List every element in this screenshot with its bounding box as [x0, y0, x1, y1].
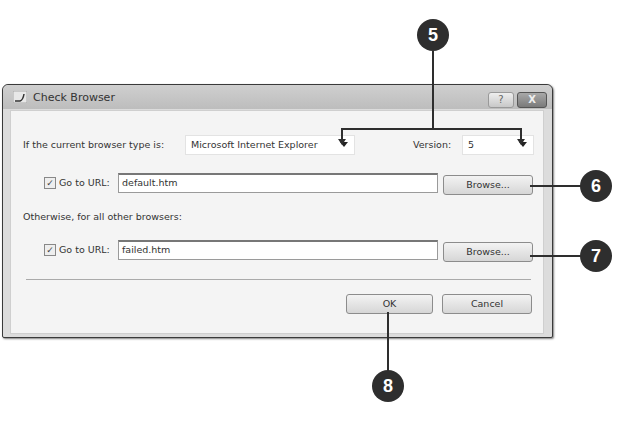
- browser-type-select[interactable]: Microsoft Internet Explorer: [185, 135, 355, 155]
- callout-8-stem: [387, 312, 389, 372]
- callout-5-bar: [341, 128, 522, 130]
- callout-8: 8: [372, 370, 404, 402]
- cancel-button[interactable]: Cancel: [442, 294, 532, 314]
- check-browser-dialog: Check Browser ? X If the current browser…: [2, 84, 553, 338]
- callout-7: 7: [580, 240, 612, 272]
- go-to-url-label-2: Go to URL:: [59, 244, 110, 255]
- version-select[interactable]: 5: [462, 135, 534, 155]
- browse-button-2[interactable]: Browse...: [443, 242, 533, 262]
- callout-5-stem: [432, 51, 434, 130]
- browser-type-value: Microsoft Internet Explorer: [191, 139, 318, 150]
- browser-type-label: If the current browser type is:: [23, 139, 164, 150]
- url-input-1-value: default.htm: [122, 177, 177, 188]
- callout-6: 6: [580, 170, 612, 202]
- separator: [26, 279, 531, 280]
- go-to-url-label-1: Go to URL:: [59, 177, 110, 188]
- callout-6-leader: [530, 185, 582, 187]
- help-button[interactable]: ?: [488, 92, 514, 108]
- callout-7-leader: [530, 255, 582, 257]
- dialog-title: Check Browser: [33, 91, 115, 104]
- url-input-2-value: failed.htm: [122, 244, 170, 255]
- close-button[interactable]: X: [517, 92, 547, 108]
- title-bar: Check Browser ? X: [3, 85, 552, 109]
- callout-5-left-arrow-icon: [338, 139, 346, 145]
- ok-button[interactable]: OK: [346, 294, 433, 314]
- otherwise-label: Otherwise, for all other browsers:: [23, 211, 182, 222]
- callout-5: 5: [417, 19, 449, 51]
- version-label: Version:: [413, 139, 451, 150]
- url-input-2[interactable]: failed.htm: [118, 240, 438, 260]
- go-to-url-checkbox-2[interactable]: ✓: [44, 244, 56, 256]
- version-value: 5: [468, 139, 474, 150]
- url-input-1[interactable]: default.htm: [118, 173, 438, 193]
- browse-button-1[interactable]: Browse...: [443, 175, 533, 195]
- dialog-body: If the current browser type is: Microsof…: [10, 110, 544, 334]
- go-to-url-checkbox-1[interactable]: ✓: [44, 177, 56, 189]
- callout-5-right-arrow-icon: [517, 139, 525, 145]
- app-icon: [13, 91, 27, 103]
